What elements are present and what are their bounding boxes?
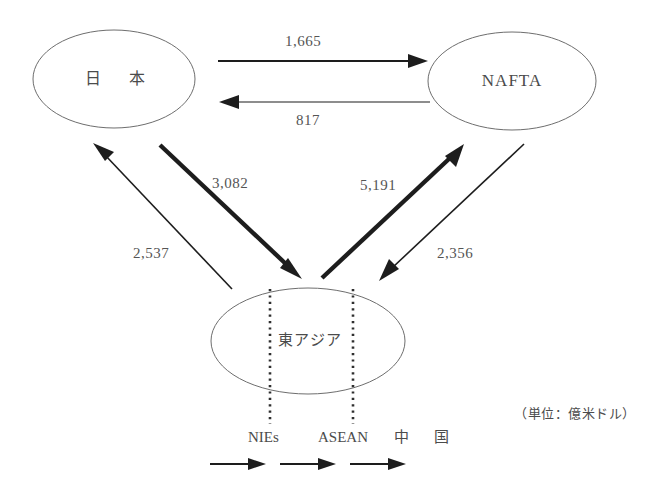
segment-label-asean: ASEAN [318, 429, 368, 445]
segment-arrow-nies-arrowhead [248, 458, 266, 470]
flow-east-asia-to-nafta-value: 5,191 [360, 177, 396, 193]
flow-japan-to-east-asia-value: 3,082 [212, 175, 248, 191]
flow-japan-to-nafta-value: 1,665 [285, 33, 321, 49]
segment-arrow-asean-arrowhead [318, 458, 336, 470]
nafta-label: NAFTA [482, 71, 542, 90]
flow-nafta-to-japan-arrowhead [219, 95, 239, 109]
segment-arrow-china [350, 458, 406, 470]
flow-east-asia-to-japan-arrowhead [93, 143, 114, 161]
node-east-asia: 東アジア [211, 288, 405, 394]
segment-arrow-asean [280, 458, 336, 470]
flow-nafta-to-japan: 817 [219, 95, 430, 128]
flow-nafta-to-japan-value: 817 [296, 112, 320, 128]
segment-arrow-china-arrowhead [388, 458, 406, 470]
flow-japan-to-east-asia: 3,082 [160, 145, 302, 279]
flow-nafta-to-east-asia-value: 2,356 [437, 245, 473, 261]
node-nafta: NAFTA [428, 32, 596, 130]
unit-note: （単位：億米ドル） [514, 406, 636, 421]
trade-flow-diagram: 日 本 NAFTA 東アジア 1,665 817 [0, 0, 655, 487]
segment-label-china: 中 国 [394, 429, 454, 445]
segment-label-nies: NIEs [248, 429, 279, 445]
east-asia-label: 東アジア [278, 332, 343, 348]
japan-label: 日 本 [85, 70, 151, 87]
diagram-canvas: 日 本 NAFTA 東アジア 1,665 817 [0, 0, 655, 487]
flow-nafta-to-east-asia-arrowhead [379, 259, 399, 281]
flow-japan-to-east-asia-line [160, 145, 287, 265]
flow-east-asia-to-nafta-arrowhead [445, 144, 464, 167]
flow-east-asia-to-japan: 2,537 [93, 143, 232, 289]
node-japan: 日 本 [33, 30, 195, 128]
flow-east-asia-to-nafta-line [322, 158, 450, 278]
flow-japan-to-nafta-arrowhead [408, 54, 428, 68]
flow-east-asia-to-japan-value: 2,537 [133, 245, 169, 261]
segment-arrow-nies [210, 458, 266, 470]
flow-japan-to-nafta: 1,665 [218, 33, 428, 68]
flow-nafta-to-east-asia: 2,356 [379, 144, 524, 281]
